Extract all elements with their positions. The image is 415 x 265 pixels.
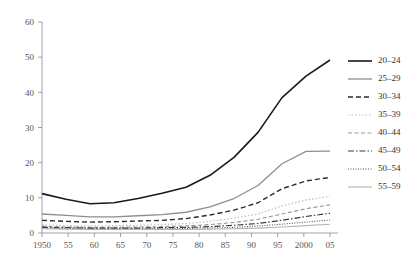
y-tick-group: 0102030405060	[25, 17, 42, 238]
x-tick-group: 1950556065707580859095200005	[33, 233, 335, 250]
x-tick-label: 80	[195, 240, 205, 250]
x-tick-label: 55	[64, 240, 74, 250]
x-tick-label: 75	[168, 240, 178, 250]
y-tick-label: 60	[25, 17, 35, 27]
x-tick-label: 70	[142, 240, 152, 250]
series-line-30-34	[42, 177, 330, 222]
y-tick-label: 40	[25, 88, 35, 98]
x-axis: 1950556065707580859095200005	[33, 233, 338, 250]
line-chart: 0102030405060 19505560657075808590952000…	[0, 0, 415, 265]
y-tick-label: 30	[25, 123, 35, 133]
chart-page: 0102030405060 19505560657075808590952000…	[0, 0, 415, 265]
y-tick-label: 50	[25, 52, 35, 62]
x-tick-label: 05	[326, 240, 336, 250]
y-tick-label: 20	[25, 158, 35, 168]
legend-label-7[interactable]: 55–59	[378, 181, 401, 191]
chart-legend: 20–2425–2930–3435–3940–4445–4950–5455–59	[348, 55, 401, 191]
legend-label-6[interactable]: 50–54	[378, 163, 401, 173]
series-line-20-24	[42, 60, 330, 204]
x-tick-label: 65	[116, 240, 126, 250]
legend-label-5[interactable]: 45–49	[378, 145, 401, 155]
legend-label-4[interactable]: 40–44	[378, 127, 401, 137]
legend-label-2[interactable]: 30–34	[378, 91, 401, 101]
series-group	[42, 60, 330, 230]
y-tick-label: 0	[30, 228, 35, 238]
y-axis: 0102030405060	[25, 17, 42, 238]
legend-label-0[interactable]: 20–24	[378, 55, 401, 65]
x-tick-label: 60	[90, 240, 100, 250]
x-tick-label: 1950	[33, 240, 52, 250]
series-line-25-29	[42, 151, 330, 217]
legend-label-1[interactable]: 25–29	[378, 73, 401, 83]
y-tick-label: 10	[25, 193, 35, 203]
legend-label-3[interactable]: 35–39	[378, 109, 401, 119]
x-tick-label: 85	[221, 240, 231, 250]
x-tick-label: 90	[247, 240, 257, 250]
x-tick-label: 2000	[295, 240, 314, 250]
x-tick-label: 95	[273, 240, 283, 250]
